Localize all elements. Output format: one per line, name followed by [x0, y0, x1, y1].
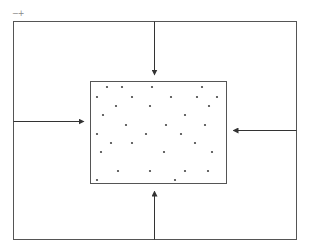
particle-dot [117, 170, 119, 172]
particle-dot [201, 86, 203, 88]
particle-dot [100, 151, 102, 153]
particle-dot [110, 142, 112, 144]
particle-dot [96, 96, 98, 98]
particle-dot [196, 96, 198, 98]
particle-dot [194, 142, 196, 144]
particle-dot [184, 170, 186, 172]
particle-dot [149, 170, 151, 172]
particle-dot [211, 151, 213, 153]
particle-dot [106, 86, 108, 88]
particle-dot [96, 133, 98, 135]
particle-dot [149, 105, 151, 107]
particle-dot [131, 96, 133, 98]
particle-dot [207, 170, 209, 172]
particle-dot [145, 133, 147, 135]
particle-dot [131, 142, 133, 144]
particle-dot [163, 151, 165, 153]
particle-dot [102, 114, 104, 116]
particle-dot [121, 86, 123, 88]
particle-dot [204, 124, 206, 126]
particle-dot [174, 179, 176, 181]
inner-container-box [91, 82, 227, 184]
particle-dot [125, 124, 127, 126]
particle-dot [170, 96, 172, 98]
particle-dot [216, 96, 218, 98]
particle-dot [165, 124, 167, 126]
particle-dot [115, 105, 117, 107]
particle-dot [208, 105, 210, 107]
diagram-canvas [0, 0, 309, 250]
particle-dot [96, 179, 98, 181]
particle-dot [184, 114, 186, 116]
particle-dot [151, 86, 153, 88]
particle-dot [180, 133, 182, 135]
